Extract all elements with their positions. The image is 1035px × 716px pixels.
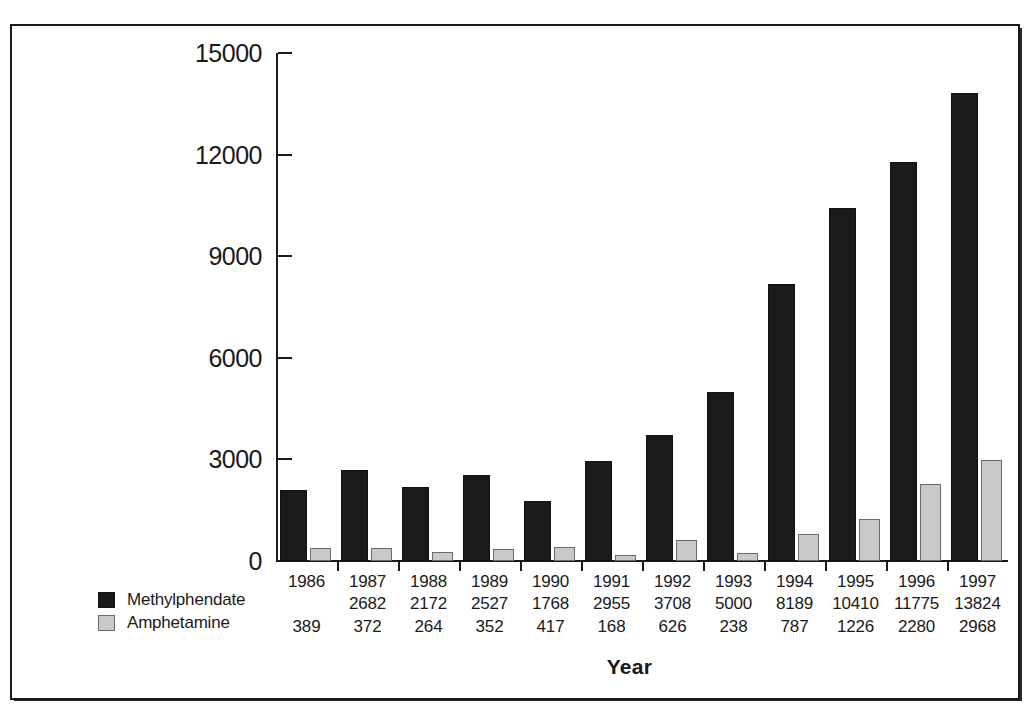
table-year-1990: 1990	[532, 572, 569, 592]
bar-methylphendate-1995	[829, 208, 856, 561]
bar-amphetamine-1988	[432, 552, 453, 561]
table-methylphendate-1991: 2955	[593, 594, 630, 614]
bar-amphetamine-1996	[920, 484, 941, 561]
chart-legend: Methylphendate Amphetamine	[98, 588, 245, 634]
y-tick-label-9000: 9000	[0, 242, 262, 271]
bar-amphetamine-1991	[615, 555, 636, 561]
bar-amphetamine-1993	[737, 553, 758, 561]
x-tick-1988	[398, 562, 400, 571]
bar-amphetamine-1987	[371, 548, 392, 561]
table-methylphendate-1989: 2527	[471, 594, 508, 614]
bar-methylphendate-1996	[890, 162, 917, 561]
x-tick-1989	[459, 562, 461, 571]
x-tick-1990	[520, 562, 522, 571]
table-methylphendate-1997: 13824	[954, 594, 1000, 614]
x-tick-1994	[764, 562, 766, 571]
bar-amphetamine-1997	[981, 460, 1002, 561]
table-year-1986: 1986	[288, 572, 325, 592]
table-amphetamine-1993: 238	[720, 617, 748, 637]
bar-methylphendate-1986	[280, 490, 307, 561]
legend-item-amphetamine: Amphetamine	[98, 611, 245, 634]
chart-figure: 03000600090001200015000 1986389198726823…	[0, 0, 1035, 716]
table-amphetamine-1989: 352	[476, 617, 504, 637]
table-amphetamine-1995: 1226	[837, 617, 874, 637]
y-tick-label-6000: 6000	[0, 343, 262, 372]
table-methylphendate-1992: 3708	[654, 594, 691, 614]
table-methylphendate-1990: 1768	[532, 594, 569, 614]
bar-amphetamine-1995	[859, 519, 880, 561]
table-year-1995: 1995	[837, 572, 874, 592]
legend-swatch-light	[98, 615, 115, 631]
bar-amphetamine-1986	[310, 548, 331, 561]
bar-methylphendate-1992	[646, 435, 673, 561]
table-methylphendate-1995: 10410	[832, 594, 878, 614]
bar-amphetamine-1994	[798, 534, 819, 561]
bar-methylphendate-1994	[768, 284, 795, 561]
table-methylphendate-1996: 11775	[894, 594, 939, 614]
y-tick-label-3000: 3000	[0, 445, 262, 474]
x-tick-1996	[886, 562, 888, 571]
y-tick-label-12000: 12000	[0, 140, 262, 169]
table-amphetamine-1990: 417	[537, 617, 565, 637]
table-amphetamine-1988: 264	[415, 617, 443, 637]
x-axis-title-text: Year	[607, 655, 653, 678]
x-axis-title: Year	[0, 655, 1035, 679]
x-tick-1997	[947, 562, 949, 571]
table-amphetamine-1986: 389	[293, 617, 321, 637]
x-tick-1992	[642, 562, 644, 571]
table-year-1991: 1991	[593, 572, 630, 592]
x-tick-1995	[825, 562, 827, 571]
table-amphetamine-1987: 372	[354, 617, 382, 637]
table-amphetamine-1992: 626	[659, 617, 687, 637]
table-amphetamine-1996: 2280	[898, 617, 935, 637]
x-tick-1991	[581, 562, 583, 571]
table-year-1993: 1993	[715, 572, 752, 592]
table-amphetamine-1994: 787	[781, 617, 809, 637]
bar-amphetamine-1990	[554, 547, 575, 561]
bar-methylphendate-1991	[585, 461, 612, 561]
table-amphetamine-1997: 2968	[959, 617, 996, 637]
table-year-1997: 1997	[959, 572, 996, 592]
legend-swatch-dark	[98, 592, 115, 608]
y-tick-label-0: 0	[0, 547, 262, 576]
table-year-1996: 1996	[898, 572, 935, 592]
x-tick-1987	[337, 562, 339, 571]
table-methylphendate-1988: 2172	[410, 594, 447, 614]
bar-methylphendate-1989	[463, 475, 490, 561]
bar-methylphendate-1990	[524, 501, 551, 561]
table-year-1988: 1988	[410, 572, 447, 592]
table-year-1989: 1989	[471, 572, 508, 592]
table-year-1994: 1994	[776, 572, 813, 592]
legend-label-amphetamine: Amphetamine	[127, 613, 230, 633]
bar-methylphendate-1993	[707, 392, 734, 561]
table-year-1987: 1987	[349, 572, 386, 592]
table-methylphendate-1994: 8189	[776, 594, 813, 614]
legend-item-methylphendate: Methylphendate	[98, 588, 245, 611]
bar-methylphendate-1988	[402, 487, 429, 561]
bar-methylphendate-1987	[341, 470, 368, 561]
legend-label-methylphendate: Methylphendate	[127, 590, 245, 610]
table-methylphendate-1993: 5000	[715, 594, 752, 614]
table-methylphendate-1987: 2682	[349, 594, 386, 614]
y-tick-label-15000: 15000	[0, 39, 262, 68]
bar-amphetamine-1992	[676, 540, 697, 561]
bar-amphetamine-1989	[493, 549, 514, 561]
x-tick-1993	[703, 562, 705, 571]
plot-area	[276, 53, 1006, 561]
bar-methylphendate-1997	[951, 93, 978, 561]
table-year-1992: 1992	[654, 572, 691, 592]
table-amphetamine-1991: 168	[598, 617, 626, 637]
